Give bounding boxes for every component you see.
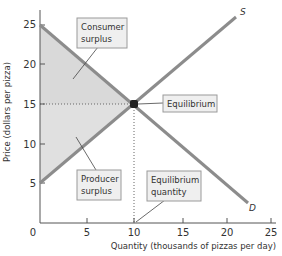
eq-quantity-label-line2: quantity — [151, 187, 186, 197]
x-tick-label: 20 — [221, 227, 234, 238]
x-axis-title: Quantity (thousands of pizzas per day) — [111, 241, 276, 251]
y-tick-label: 10 — [23, 139, 36, 150]
x-ticks — [87, 218, 271, 223]
eq-quantity-label-line1: Equilibrium — [151, 175, 199, 185]
producer-surplus-label-line1: Producer — [81, 174, 119, 184]
origin-label: 0 — [30, 227, 36, 238]
consumer-surplus-annotation: Consumer surplus — [77, 18, 127, 48]
demand-curve-label: D — [249, 203, 256, 213]
y-tick-label: 5 — [30, 178, 36, 189]
consumer-surplus-label-line2: surplus — [81, 34, 112, 44]
equilibrium-point — [130, 100, 138, 108]
x-tick-label: 25 — [265, 227, 278, 238]
y-tick-label: 15 — [23, 99, 36, 110]
x-tick-label: 10 — [128, 227, 141, 238]
consumer-surplus-label-line1: Consumer — [81, 22, 125, 32]
equilibrium-leader — [138, 103, 163, 104]
equilibrium-annotation: Equilibrium — [163, 95, 217, 112]
x-tick-label: 15 — [177, 227, 190, 238]
x-tick-label: 5 — [84, 227, 90, 238]
eq-quantity-leader — [136, 200, 165, 222]
y-axis-title: Price (dollars per pizza) — [2, 62, 12, 162]
producer-surplus-label-line2: surplus — [81, 186, 112, 196]
producer-surplus-annotation: Producer surplus — [77, 170, 121, 200]
consumer-producer-surplus-chart: 25 20 15 10 5 0 5 10 15 20 25 Quantity (… — [0, 0, 282, 256]
equilibrium-label: Equilibrium — [167, 99, 215, 109]
y-tick-label: 25 — [23, 19, 36, 30]
equilibrium-quantity-annotation: Equilibrium quantity — [147, 171, 201, 201]
y-tick-label: 20 — [23, 59, 36, 70]
supply-curve-label: S — [240, 7, 246, 17]
